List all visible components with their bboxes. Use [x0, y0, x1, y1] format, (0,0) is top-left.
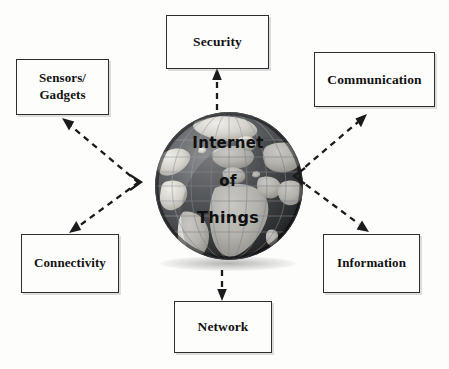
connector-center-to-communication — [297, 114, 367, 174]
globe-icon — [155, 112, 303, 260]
connector-center-to-security — [212, 68, 222, 110]
node-sensors-gadgets[interactable]: Sensors/ Gadgets — [16, 59, 109, 115]
node-security[interactable]: Security — [166, 15, 269, 69]
connector-center-to-connectivity — [69, 182, 139, 233]
node-security-label: Security — [193, 33, 242, 50]
diagram-canvas: Internet of Things — [0, 0, 449, 369]
node-connectivity-label: Connectivity — [34, 255, 106, 272]
node-communication-label: Communication — [327, 71, 421, 88]
node-information[interactable]: Information — [323, 234, 420, 293]
connector-center-to-sensors — [62, 118, 139, 183]
node-connectivity[interactable]: Connectivity — [21, 234, 119, 293]
node-network[interactable]: Network — [174, 301, 272, 353]
node-network-label: Network — [198, 318, 249, 335]
left-vertex-marker — [130, 175, 141, 190]
node-communication[interactable]: Communication — [314, 52, 435, 107]
connector-center-to-information — [297, 178, 369, 232]
node-sensors-gadgets-label: Sensors/ Gadgets — [39, 70, 86, 103]
center-node-globe: Internet of Things — [152, 110, 304, 278]
node-information-label: Information — [337, 255, 406, 272]
